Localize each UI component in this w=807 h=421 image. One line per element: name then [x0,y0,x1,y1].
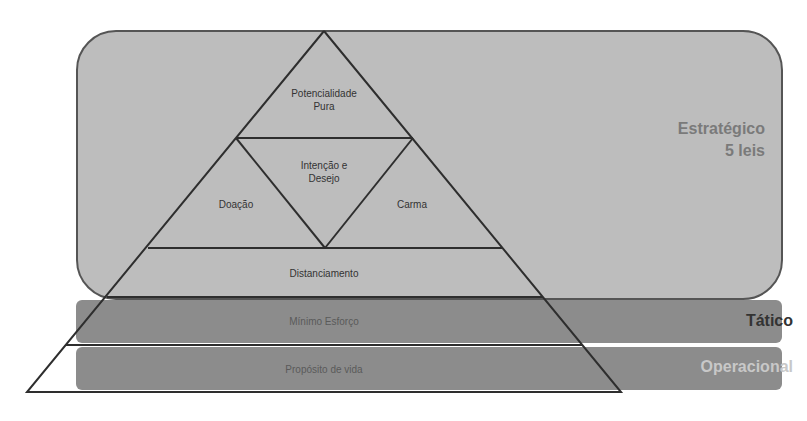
band1-label: Distanciamento [290,267,359,280]
center-label-line2: Desejo [301,172,348,185]
apex-label: Potencialidade Pura [291,87,357,113]
strategic-level-label: Estratégico 5 leis [678,118,765,162]
strategic-title: Estratégico [678,118,765,140]
operational-level-label: Operacional [701,358,793,376]
band2-label: Mínimo Esforço [289,315,358,328]
strategic-subtitle: 5 leis [678,140,765,162]
left-label: Doação [219,198,253,211]
tactical-level-label: Tático [746,312,793,330]
pyramid-diagram [0,0,807,421]
right-label: Carma [397,198,427,211]
pyramid-outline [27,31,621,392]
center-label: Intenção e Desejo [301,159,348,185]
band3-label: Propósito de vida [285,363,362,376]
center-label-line1: Intenção e [301,159,348,172]
apex-label-line2: Pura [291,100,357,113]
apex-label-line1: Potencialidade [291,87,357,100]
